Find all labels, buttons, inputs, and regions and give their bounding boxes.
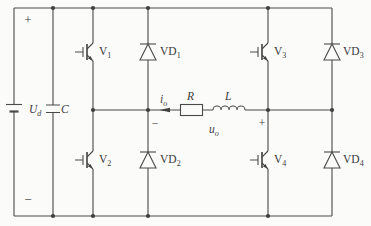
vd4-label-main: VD: [343, 153, 360, 165]
diode-vd3-symbol: [324, 44, 340, 60]
diode-vd2-symbol: [140, 152, 156, 168]
igbt-v1-symbol: [75, 43, 93, 61]
dc-minus-label: −: [24, 192, 31, 207]
capacitor-symbol: [46, 105, 60, 113]
junction-dot: [91, 214, 95, 218]
junction-dot: [146, 214, 150, 218]
inverter-circuit-diagram: + − Ud C V1 VD1 V3 VD3 V2 VD2 V4 VD4 io …: [0, 0, 371, 226]
diode-vd1-symbol: [140, 44, 156, 60]
circuit-canvas: + − Ud C V1 VD1 V3 VD3 V2 VD2 V4 VD4 io …: [0, 0, 371, 226]
junction-dot: [51, 6, 55, 10]
junction-dot: [91, 108, 95, 112]
current-label: io: [160, 93, 167, 108]
vd1-label-main: VD: [160, 45, 177, 57]
current-label-sub: o: [163, 99, 167, 108]
inductor-label: L: [224, 90, 231, 102]
load-plus-label: +: [259, 117, 266, 129]
vd3-label: VD3: [343, 45, 364, 60]
vd3-label-sub: 3: [360, 51, 364, 60]
vd2-label-main: VD: [160, 153, 177, 165]
voltage-label: uo: [209, 123, 219, 138]
v4-label-sub: 4: [282, 159, 286, 168]
junction-dot: [146, 108, 150, 112]
dc-plus-label: +: [24, 12, 31, 27]
junction-dot: [330, 108, 334, 112]
v1-label-sub: 1: [107, 51, 111, 60]
v2-label: V2: [99, 153, 111, 168]
junction-dot: [91, 6, 95, 10]
junction-dot: [266, 6, 270, 10]
v4-label: V4: [274, 153, 286, 168]
diode-vd4-symbol: [324, 152, 340, 168]
vd3-label-main: VD: [343, 45, 360, 57]
vd2-label-sub: 2: [177, 159, 181, 168]
igbt-v3-symbol: [250, 43, 268, 61]
junction-dot: [146, 6, 150, 10]
vd4-label-sub: 4: [360, 159, 364, 168]
v3-label: V3: [274, 45, 286, 60]
igbt-v2-symbol: [75, 151, 93, 169]
vd4-label: VD4: [343, 153, 364, 168]
load-minus-label: −: [152, 117, 159, 129]
v1-label: V1: [99, 45, 111, 60]
vd1-label-sub: 1: [177, 51, 181, 60]
igbt-v4-symbol: [250, 151, 268, 169]
source-label: Ud: [29, 103, 42, 118]
v2-label-sub: 2: [107, 159, 111, 168]
inductor-symbol: [213, 106, 245, 110]
dc-source-symbol: [6, 105, 22, 112]
v3-label-sub: 3: [282, 51, 286, 60]
source-label-sub: d: [37, 109, 42, 118]
voltage-label-sub: o: [215, 129, 219, 138]
vd1-label: VD1: [160, 45, 181, 60]
junction-dot: [51, 214, 55, 218]
current-arrow: [160, 108, 171, 113]
junction-dot: [266, 214, 270, 218]
junction-dot: [266, 108, 270, 112]
vd2-label: VD2: [160, 153, 181, 168]
resistor-symbol: [181, 105, 203, 116]
resistor-label: R: [186, 90, 194, 102]
capacitor-label: C: [61, 103, 69, 115]
